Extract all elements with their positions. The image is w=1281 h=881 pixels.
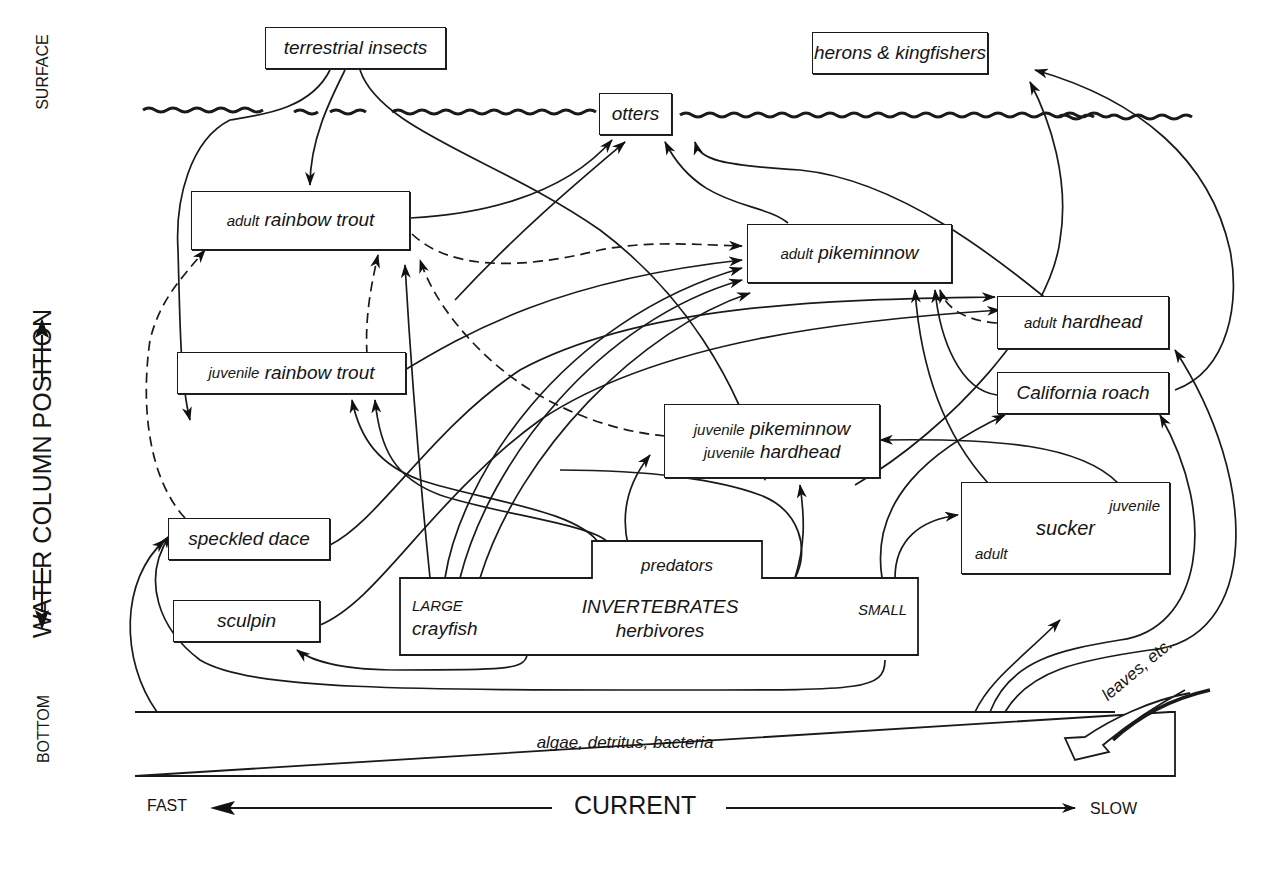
node-sculpin: sculpin [173, 600, 320, 642]
node-sucker: juvenile sucker adult [961, 482, 1170, 574]
node-juvenile-pikeminnow-hardhead: juvenile pikeminnow juvenile hardhead [664, 404, 880, 478]
invertebrates-crayfish-label: crayfish [412, 618, 477, 640]
node-speckled-dace: speckled dace [168, 518, 330, 560]
node-herons-kingfishers: herons & kingfishers [812, 32, 988, 74]
life-stage-juvenile: juvenile [1109, 497, 1160, 515]
node-label: sculpin [217, 610, 276, 633]
algae-detritus-bacteria-label: algae, detritus, bacteria [135, 733, 1115, 753]
axis-bottom-label: BOTTOM [35, 689, 53, 769]
axis-current-title: CURRENT [574, 791, 696, 820]
species-label: pikeminnow [818, 242, 918, 265]
life-stage-label: juvenile [704, 444, 755, 461]
invertebrates-small-label: SMALL [858, 601, 907, 618]
node-terrestrial-insects: terrestrial insects [265, 27, 446, 69]
axis-slow-label: SLOW [1090, 800, 1137, 818]
juvenile-pikeminnow-line: juvenile pikeminnow [694, 418, 850, 441]
invertebrates-predators-label: predators [592, 556, 762, 576]
node-label: speckled dace [188, 528, 309, 551]
links [35, 70, 1236, 815]
invertebrates-herbivores-label: herbivores [540, 620, 780, 642]
life-stage-label: juvenile [209, 364, 260, 382]
life-stage-label: adult [780, 245, 813, 263]
axis-water-column-title: WATER COLUMN POSITION [28, 309, 57, 639]
node-adult-hardhead: adult hardhead [997, 296, 1169, 349]
species-label: pikeminnow [750, 418, 850, 439]
axis-fast-label: FAST [147, 797, 187, 815]
node-juvenile-rainbow-trout: juvenile rainbow trout [177, 352, 406, 394]
invertebrates-large-label: LARGE [412, 597, 463, 614]
life-stage-adult: adult [975, 545, 1008, 563]
node-label: California roach [1016, 382, 1149, 405]
node-otters: otters [599, 93, 672, 135]
life-stage-label: juvenile [694, 421, 745, 438]
species-label: sucker [1036, 516, 1095, 540]
node-adult-rainbow-trout: adult rainbow trout [191, 191, 410, 250]
node-label: herons & kingfishers [814, 42, 986, 65]
node-label: otters [612, 103, 660, 126]
species-label: rainbow trout [265, 362, 375, 385]
node-adult-pikeminnow: adult pikeminnow [747, 224, 952, 283]
species-label: hardhead [760, 441, 840, 462]
juvenile-hardhead-line: juvenile hardhead [704, 441, 840, 464]
node-california-roach: California roach [997, 372, 1169, 414]
species-label: hardhead [1062, 311, 1142, 334]
life-stage-label: adult [1024, 314, 1057, 332]
life-stage-label: adult [227, 212, 260, 230]
node-label: terrestrial insects [284, 37, 428, 60]
axis-surface-label: SURFACE [34, 27, 52, 117]
invertebrates-title: INVERTEBRATES [540, 596, 780, 618]
species-label: rainbow trout [264, 209, 374, 232]
